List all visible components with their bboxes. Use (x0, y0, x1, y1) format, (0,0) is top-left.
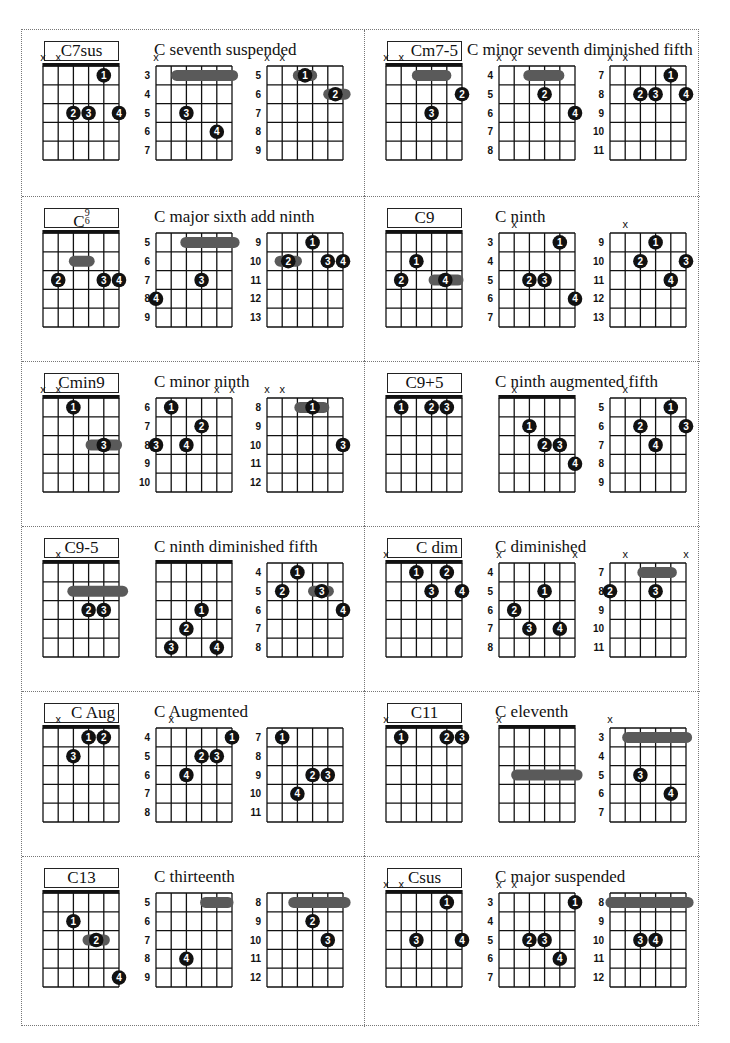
nut (385, 725, 462, 729)
chord-diagram: 34567x1234 (477, 219, 597, 333)
finger-number: 4 (653, 935, 659, 946)
chord-diagram: x (477, 714, 597, 828)
fret-number: 5 (598, 402, 604, 413)
chord-panel: C AugC Augmentedx12345678x12347891011123… (22, 691, 364, 856)
finger-number: 3 (638, 770, 644, 781)
muted-string-icon: x (383, 713, 389, 725)
fret-number: 7 (598, 70, 604, 81)
chord-panel: C9+5C ninth augmented fifth123x123456789… (364, 361, 700, 526)
fret-number: 11 (593, 275, 604, 286)
muted-string-icon: x (622, 51, 628, 63)
chord-panel: C dimC diminishedx123445678xx12347891011… (364, 526, 700, 691)
barre (412, 70, 452, 81)
fret-number: 10 (593, 256, 605, 267)
fret-number: 6 (255, 89, 261, 100)
fret-number: 12 (250, 477, 262, 488)
barre (622, 732, 692, 743)
fret-number: 4 (487, 567, 493, 578)
finger-number: 4 (668, 275, 674, 286)
finger-number: 4 (116, 972, 122, 983)
fret-number: 11 (593, 642, 604, 653)
finger-number: 2 (93, 935, 99, 946)
fret-number: 7 (487, 972, 493, 983)
fret-number: 5 (598, 770, 604, 781)
finger-number: 2 (310, 770, 316, 781)
muted-string-icon: x (264, 51, 270, 63)
chord-diagram: 7891011xx1234 (588, 52, 708, 166)
muted-string-icon: x (55, 51, 61, 63)
nut (498, 395, 575, 399)
finger-number: 1 (398, 732, 404, 743)
finger-number: 2 (444, 732, 450, 743)
fret-number: 5 (487, 586, 493, 597)
muted-string-icon: x (683, 548, 689, 560)
chord-panel: C7susC seventh suspendedxx123434567x3456… (22, 30, 364, 196)
finger-number: 3 (542, 935, 548, 946)
finger-number: 4 (668, 788, 674, 799)
chord-diagram: 456781234 (245, 549, 365, 663)
fret-number: 8 (144, 953, 150, 964)
finger-number: 2 (638, 256, 644, 267)
fret-number: 7 (487, 312, 493, 323)
fret-number: 6 (255, 605, 261, 616)
fret-number: 9 (255, 770, 261, 781)
chord-diagram: x23 (21, 549, 141, 663)
finger-number: 2 (398, 275, 404, 286)
fret-number: 5 (255, 586, 261, 597)
fret-number: 5 (487, 275, 493, 286)
chord-diagram: 56789x1234 (588, 384, 708, 498)
finger-number: 2 (333, 89, 339, 100)
finger-number: 4 (116, 108, 122, 119)
fret-number: 9 (255, 421, 261, 432)
chord-diagram: xx23 (364, 52, 484, 166)
fret-number: 9 (598, 237, 604, 248)
finger-number: 3 (153, 440, 159, 451)
nut (42, 395, 119, 399)
fret-number: 6 (487, 293, 493, 304)
finger-number: 3 (527, 623, 533, 634)
finger-number: 4 (184, 953, 190, 964)
fret-number: 3 (487, 897, 493, 908)
muted-string-icon: x (607, 51, 613, 63)
barre (67, 586, 128, 597)
finger-number: 3 (444, 402, 450, 413)
fret-number: 11 (250, 953, 261, 964)
chord-diagram: 1234 (134, 549, 254, 663)
finger-number: 4 (184, 770, 190, 781)
finger-number: 2 (101, 732, 107, 743)
chord-diagram: 34567xx1234 (477, 879, 597, 993)
chord-diagram: 89101112xx13 (245, 384, 365, 498)
chord-diagram: 8910111223 (245, 879, 365, 993)
fret-number: 7 (144, 935, 150, 946)
finger-number: 4 (653, 440, 659, 451)
fret-number: 11 (593, 145, 604, 156)
fret-number: 6 (144, 770, 150, 781)
finger-number: 4 (295, 788, 301, 799)
fret-number: 9 (255, 145, 261, 156)
fret-number: 6 (487, 953, 493, 964)
finger-number: 4 (572, 458, 578, 469)
finger-number: 2 (199, 421, 205, 432)
finger-number: 4 (557, 953, 563, 964)
chord-diagram: 45678xx1234 (477, 549, 597, 663)
muted-string-icon: x (55, 383, 61, 395)
nut (42, 63, 119, 67)
finger-number: 3 (459, 732, 465, 743)
chord-diagram: 123 (364, 384, 484, 498)
chord-diagram: 910111213x1234 (588, 219, 708, 333)
finger-number: 1 (295, 567, 301, 578)
finger-number: 3 (319, 586, 325, 597)
fret-number: 12 (593, 293, 605, 304)
muted-string-icon: x (511, 878, 517, 890)
muted-string-icon: x (572, 548, 578, 560)
muted-string-icon: x (279, 383, 285, 395)
chord-diagram: 567894 (134, 879, 254, 993)
fret-number: 12 (250, 972, 262, 983)
chord-diagram: x123 (364, 714, 484, 828)
finger-number: 3 (638, 935, 644, 946)
finger-number: 1 (557, 237, 563, 248)
muted-string-icon: x (40, 51, 46, 63)
fret-number: 8 (487, 145, 493, 156)
finger-number: 2 (638, 421, 644, 432)
chord-diagram: 45678xx24 (477, 52, 597, 166)
